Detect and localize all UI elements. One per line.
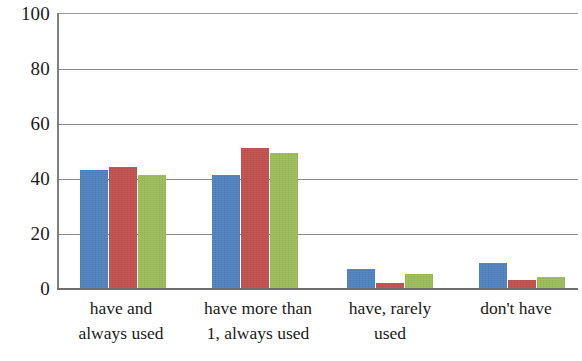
- bar-series3-cat3: [405, 274, 433, 288]
- bar-series3-cat1: [138, 175, 166, 288]
- x-tick-label-cat3: have, rarely used: [329, 296, 451, 346]
- bar-group: [80, 14, 166, 288]
- bar-series2-cat1: [109, 167, 137, 288]
- bar-series1-cat2: [212, 175, 240, 288]
- bar-group: [479, 14, 565, 288]
- y-tick-label: 60: [4, 114, 50, 133]
- y-tick-label: 100: [4, 4, 50, 23]
- y-tick-label: 20: [4, 224, 50, 243]
- y-tick-label: 40: [4, 169, 50, 188]
- x-tick-label-cat4: don't have: [455, 296, 577, 321]
- y-tick-label: 80: [4, 59, 50, 78]
- bar-group: [212, 14, 298, 288]
- y-tick-label: 0: [4, 279, 50, 298]
- bar-series3-cat4: [537, 277, 565, 288]
- x-tick-line2: used: [329, 321, 451, 346]
- y-axis: 100 80 60 40 20 0: [0, 0, 50, 361]
- bar-chart: 100 80 60 40 20 0: [0, 0, 582, 361]
- x-tick-label-cat2: have more than 1, always used: [188, 296, 328, 346]
- x-tick-line1: have, rarely: [349, 298, 432, 318]
- x-axis: have and always used have more than 1, a…: [57, 296, 578, 358]
- bar-group: [347, 14, 433, 288]
- bar-series2-cat3: [376, 283, 404, 289]
- bar-series1-cat1: [80, 170, 108, 288]
- x-tick-line1: have and: [90, 298, 153, 318]
- plot-area: [57, 13, 578, 288]
- x-tick-line2: always used: [57, 321, 185, 346]
- bar-series1-cat3: [347, 269, 375, 288]
- axis-baseline: [57, 288, 578, 290]
- x-tick-line1: have more than: [204, 298, 312, 318]
- bar-series3-cat2: [270, 153, 298, 288]
- bar-series1-cat4: [479, 263, 507, 288]
- x-tick-line1: don't have: [480, 298, 552, 318]
- bar-series2-cat4: [508, 280, 536, 288]
- x-tick-line2: 1, always used: [188, 321, 328, 346]
- x-tick-label-cat1: have and always used: [57, 296, 185, 346]
- bar-series2-cat2: [241, 148, 269, 288]
